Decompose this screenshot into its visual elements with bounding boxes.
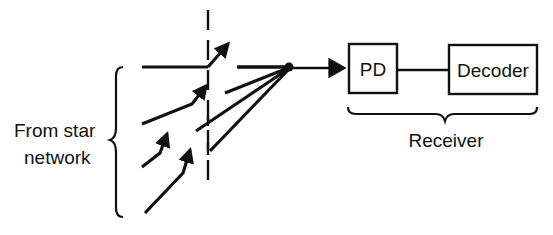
input-beam-1 bbox=[142, 44, 228, 67]
input-beam-3 bbox=[142, 134, 167, 167]
pd-label: PD bbox=[360, 59, 386, 80]
decoder-label: Decoder bbox=[457, 60, 529, 81]
source-label-line2: network bbox=[24, 147, 91, 168]
combiner-fan bbox=[196, 67, 288, 155]
source-label: From star network bbox=[14, 120, 96, 168]
input-beam-2 bbox=[142, 86, 206, 124]
receiver-brace bbox=[348, 107, 537, 121]
receiver-label: Receiver bbox=[409, 130, 485, 151]
diagram-canvas: From star network bbox=[0, 0, 553, 235]
combiner-node bbox=[285, 63, 294, 72]
source-brace bbox=[110, 67, 123, 217]
decoder-block: Decoder bbox=[449, 45, 537, 94]
pd-block: PD bbox=[349, 44, 397, 93]
source-label-line1: From star bbox=[14, 120, 96, 141]
